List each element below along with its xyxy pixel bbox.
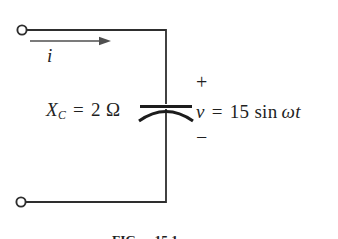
figure-caption-number: 15.1 (154, 232, 178, 239)
voltage-value-argument: ωt (281, 101, 300, 122)
terminal-top-icon (17, 25, 26, 34)
terminal-bottom-icon (16, 197, 25, 206)
voltage-plus-sign: + (196, 72, 208, 92)
voltage-label: v=15 sinωt (196, 102, 301, 121)
figure-caption: FIG.15.1 (112, 233, 178, 239)
current-label: i (47, 46, 53, 65)
current-arrow-head (99, 37, 111, 45)
reactance-value: 2 Ω (91, 99, 120, 120)
voltage-value: 15 sin (230, 101, 278, 122)
figure-caption-label: FIG. (112, 232, 139, 239)
reactance-subscript: C (58, 109, 66, 122)
reactance-label: XC=2 Ω (46, 100, 120, 119)
circuit-diagram: i XC=2 Ω + v=15 sinωt − FIG.15.1 (0, 0, 338, 239)
voltage-equals: = (212, 101, 223, 122)
reactance-equals: = (73, 99, 84, 120)
voltage-var: v (196, 101, 205, 122)
wire-bottom (26, 109, 166, 202)
voltage-minus-sign: − (196, 127, 208, 147)
reactance-var: X (46, 99, 58, 120)
